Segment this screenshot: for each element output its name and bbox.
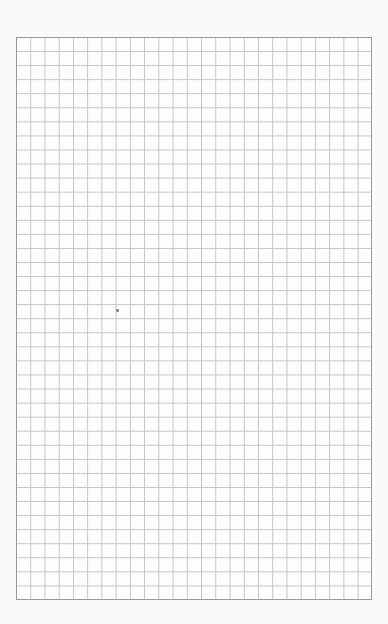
ink-speck	[116, 309, 119, 312]
graph-paper	[0, 0, 388, 624]
square-grid	[16, 37, 372, 600]
